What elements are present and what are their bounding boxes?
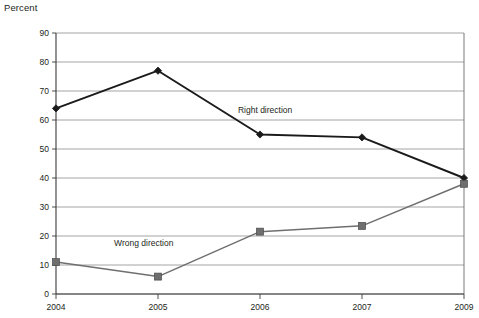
series-annotations: Right directionWrong direction bbox=[114, 105, 293, 248]
data-point-marker bbox=[53, 259, 60, 266]
y-tick-label: 90 bbox=[40, 28, 50, 38]
data-point-marker bbox=[155, 273, 162, 280]
x-tick-label: 2007 bbox=[353, 302, 372, 312]
line-chart-plot: 0102030405060708090 20042005200620072009… bbox=[0, 0, 479, 318]
x-tick-label: 2006 bbox=[251, 302, 270, 312]
gridlines bbox=[56, 33, 464, 294]
y-tick-label: 50 bbox=[40, 144, 50, 154]
y-tick-label: 40 bbox=[40, 173, 50, 183]
data-point-marker bbox=[461, 180, 468, 187]
series-annotation-label: Right direction bbox=[238, 105, 293, 115]
y-tick-label: 0 bbox=[44, 289, 49, 299]
x-axis-ticks: 20042005200620072009 bbox=[47, 294, 474, 312]
x-tick-label: 2009 bbox=[455, 302, 474, 312]
data-point-marker bbox=[358, 134, 365, 141]
chart-container: Percent 0102030405060708090 200420052006… bbox=[0, 0, 479, 318]
x-tick-label: 2004 bbox=[47, 302, 66, 312]
data-point-marker bbox=[52, 105, 59, 112]
y-axis-ticks: 0102030405060708090 bbox=[40, 28, 56, 299]
series-line bbox=[56, 71, 464, 178]
y-tick-label: 70 bbox=[40, 86, 50, 96]
y-tick-label: 10 bbox=[40, 260, 50, 270]
y-tick-label: 30 bbox=[40, 202, 50, 212]
series-annotation-label: Wrong direction bbox=[114, 238, 174, 248]
y-tick-label: 20 bbox=[40, 231, 50, 241]
data-point-marker bbox=[257, 228, 264, 235]
x-tick-label: 2005 bbox=[149, 302, 168, 312]
y-tick-label: 60 bbox=[40, 115, 50, 125]
plot-frame bbox=[56, 33, 464, 294]
y-tick-label: 80 bbox=[40, 57, 50, 67]
data-point-marker bbox=[359, 222, 366, 229]
